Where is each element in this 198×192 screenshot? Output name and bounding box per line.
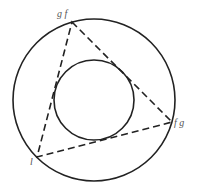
label-top-vertex: g f <box>57 8 69 19</box>
circle-triangle-diagram: g f f g l <box>0 0 198 192</box>
diagram-canvas: g f f g l <box>0 0 198 192</box>
label-left-vertex: l <box>30 156 33 167</box>
label-right-vertex: f g <box>174 117 184 128</box>
